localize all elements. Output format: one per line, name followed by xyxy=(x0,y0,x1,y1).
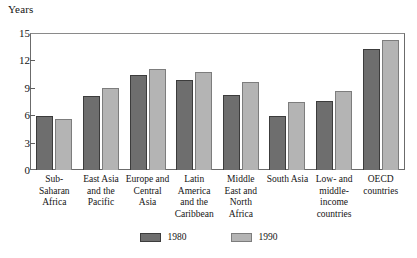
x-axis-tick-label: Middle East and North Africa xyxy=(218,174,265,230)
legend-item[interactable]: 1990 xyxy=(231,232,278,242)
legend-swatch-1980 xyxy=(140,233,161,242)
bar-1990[interactable] xyxy=(55,119,72,170)
legend-item[interactable]: 1980 xyxy=(140,232,187,242)
x-axis-category-labels: Sub-Saharan AfricaEast Asia and the Paci… xyxy=(31,174,404,230)
y-axis-tick-label: 6 xyxy=(6,110,30,121)
y-axis-tick-label: 9 xyxy=(6,82,30,93)
bar-1990[interactable] xyxy=(288,102,305,171)
bar-1990[interactable] xyxy=(102,88,119,170)
bar-1980[interactable] xyxy=(223,95,240,170)
x-axis-tick-label: Europe and Central Asia xyxy=(124,174,171,230)
bar-group xyxy=(78,34,125,170)
bar-1990[interactable] xyxy=(195,72,212,170)
bars-container xyxy=(31,34,404,170)
legend-swatch-1990 xyxy=(231,233,252,242)
y-axis-tick-label: 3 xyxy=(6,137,30,148)
bar-1980[interactable] xyxy=(269,116,286,170)
bar-1990[interactable] xyxy=(242,82,259,170)
bar-group xyxy=(124,34,171,170)
bar-chart-figure: Years 03691215 Sub-Saharan AfricaEast As… xyxy=(0,0,417,258)
y-axis: 03691215 xyxy=(0,0,30,258)
bar-1980[interactable] xyxy=(83,96,100,170)
bar-group xyxy=(171,34,218,170)
bar-1980[interactable] xyxy=(316,101,333,170)
y-axis-tick-mark xyxy=(30,143,35,144)
bar-1980[interactable] xyxy=(130,75,147,170)
bar-1980[interactable] xyxy=(36,116,53,170)
y-axis-tick-mark xyxy=(30,115,35,116)
bar-1980[interactable] xyxy=(176,80,193,170)
legend-label: 1980 xyxy=(168,232,187,242)
bar-group xyxy=(218,34,265,170)
x-axis-tick-label: OECD countries xyxy=(357,174,404,230)
x-axis-tick-label: East Asia and the Pacific xyxy=(78,174,125,230)
x-axis-tick-label: Latin America and the Caribbean xyxy=(171,174,218,230)
y-axis-tick-label: 0 xyxy=(6,165,30,176)
bar-group xyxy=(264,34,311,170)
bar-1990[interactable] xyxy=(149,69,166,170)
bar-group xyxy=(357,34,404,170)
x-axis-tick-label: Low- and middle-income countries xyxy=(311,174,358,230)
bar-group xyxy=(311,34,358,170)
y-axis-tick-label: 12 xyxy=(6,55,30,66)
y-axis-tick-mark xyxy=(30,88,35,89)
bar-group xyxy=(31,34,78,170)
bar-1990[interactable] xyxy=(335,91,352,170)
y-axis-tick-label: 15 xyxy=(6,28,30,39)
chart-legend: 19801990 xyxy=(0,232,417,242)
legend-label: 1990 xyxy=(259,232,278,242)
bar-1990[interactable] xyxy=(382,40,399,170)
x-axis-tick-label: Sub-Saharan Africa xyxy=(31,174,78,230)
y-axis-tick-mark xyxy=(30,60,35,61)
bar-1980[interactable] xyxy=(363,49,380,170)
x-axis-tick-label: South Asia xyxy=(264,174,311,230)
